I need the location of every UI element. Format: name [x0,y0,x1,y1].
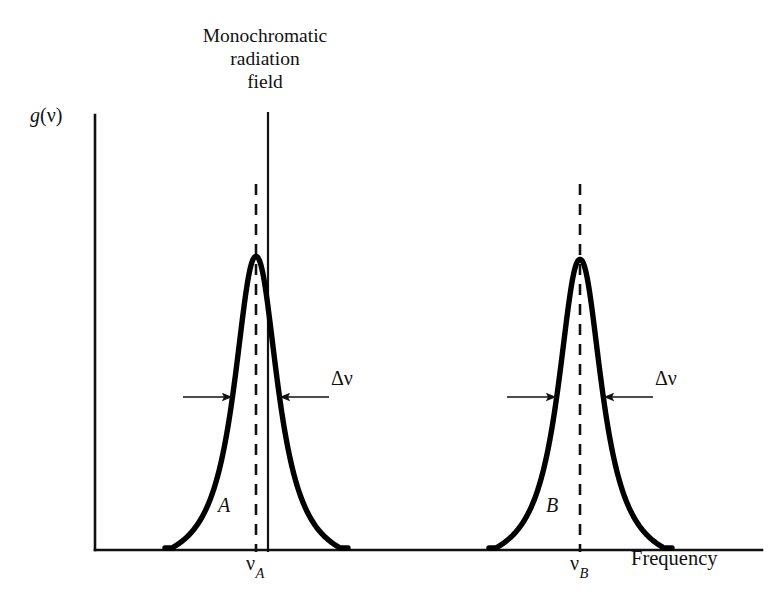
axis-group [95,115,762,550]
caption-line-2: radiation [176,47,354,70]
caption-line-1: Monochromatic [176,24,354,47]
tick-label-nu-a: νA [246,552,264,579]
tick-label-nu-a-subscript: A [256,565,265,581]
monochromatic-field-caption: Monochromatic radiation field [176,24,354,93]
linewidth-label-b: Δν [655,367,677,391]
tick-label-nu-b: νB [570,552,588,579]
y-axis-label-variable: ν [47,104,56,126]
y-axis-label-paren-open: ( [40,104,47,126]
y-axis-label-function: g [30,104,40,126]
spectral-lineshape-figure: Monochromatic radiation field g(ν) Frequ… [0,0,783,595]
curve-label-a: A [218,494,230,518]
tick-label-nu-b-subscript: B [580,565,589,581]
x-axis-label: Frequency [631,546,718,570]
y-axis-label-paren-close: ) [56,104,63,126]
figure-canvas [0,0,783,595]
y-axis-label: g(ν) [30,104,62,128]
caption-line-3: field [176,70,354,93]
linewidth-label-a: Δν [331,367,353,391]
curve-label-b: B [546,494,558,518]
tick-label-nu-b-symbol: ν [570,552,579,574]
tick-label-nu-a-symbol: ν [246,552,255,574]
